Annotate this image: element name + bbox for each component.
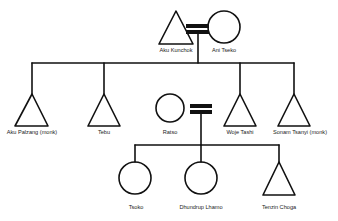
- female-circle-icon: [208, 11, 240, 43]
- person-label: Tebu: [98, 129, 110, 135]
- female-circle-icon: [119, 162, 151, 194]
- person-label: Ani Tseko: [212, 47, 236, 53]
- marriage-bar-icon: [186, 30, 209, 34]
- person-label: Ratso: [163, 129, 178, 135]
- family-tree-diagram: Aku Kunchok Ani Tseko Aku Palzang (monk)…: [0, 0, 338, 221]
- person-label: Aku Kunchok: [160, 47, 193, 53]
- person-label: Dhundrup Lhamo: [179, 204, 222, 210]
- marriage-bar-icon: [190, 104, 212, 108]
- marriage-bar-icon: [190, 110, 212, 114]
- person-label: Tenzin Choga: [262, 204, 297, 210]
- male-triangle-icon: [278, 94, 310, 126]
- person-label: Woje Tashi: [226, 129, 253, 135]
- person-label: Tsoko: [129, 204, 144, 210]
- male-triangle-icon: [224, 94, 256, 126]
- male-triangle-icon: [15, 94, 48, 126]
- person-label: Sonam Tsanyi (monk): [273, 129, 327, 135]
- female-circle-icon: [185, 162, 217, 194]
- female-circle-icon: [156, 94, 184, 122]
- male-triangle-icon: [88, 94, 120, 126]
- male-triangle-icon: [263, 162, 295, 195]
- person-label: Aku Palzang (monk): [7, 129, 58, 135]
- marriage-bar-icon: [186, 24, 209, 28]
